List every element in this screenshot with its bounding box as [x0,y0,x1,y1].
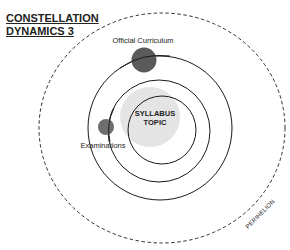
examinations-planet[interactable] [98,119,114,135]
syllabus-topic-line-1: SYLLABUS [135,109,175,118]
official-curriculum-label: Official Curriculum [112,36,173,45]
examinations-label: Examinations [80,141,125,150]
constellation-diagram: Official Curriculum Examinations SYLLABU… [0,0,290,250]
perihelion-label: PERIHELION [244,198,275,229]
syllabus-topic-line-2: TOPIC [144,118,167,127]
